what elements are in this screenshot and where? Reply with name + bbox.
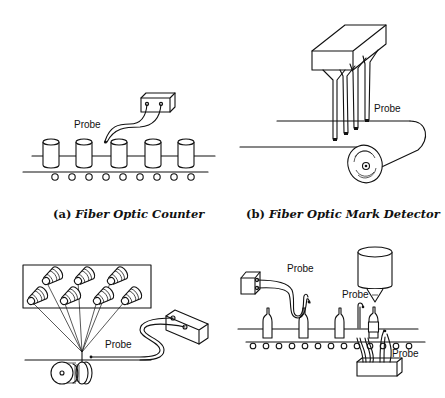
fiber-cable bbox=[257, 280, 308, 316]
probe-label: Probe bbox=[374, 103, 401, 114]
conveyor-rollers bbox=[250, 343, 412, 349]
probe-label: Probe bbox=[287, 263, 314, 274]
probe-label: Probe bbox=[392, 348, 419, 359]
probe-tip bbox=[90, 356, 93, 359]
probe-tip bbox=[308, 301, 311, 304]
fiber-optic-counter-diagram: Probe bbox=[23, 93, 215, 180]
probe-label: Probe bbox=[74, 119, 101, 130]
spool bbox=[51, 362, 92, 384]
caption-fiber-optic-mark-detector: (b) Fiber Optic Mark Detector bbox=[246, 207, 440, 221]
probe-tip bbox=[104, 140, 107, 143]
caption-text: Fiber Optic Counter bbox=[75, 207, 204, 221]
caption-prefix: (a) bbox=[53, 207, 71, 221]
conveyor-rollers bbox=[52, 174, 194, 180]
fiber-optic-multi-source-diagram: Probe bbox=[23, 265, 208, 384]
caption-fiber-optic-counter: (a) Fiber Optic Counter bbox=[53, 207, 204, 221]
caption-prefix: (b) bbox=[246, 207, 265, 221]
amplifier-box bbox=[241, 272, 260, 294]
caption-text: Fiber Optic Mark Detector bbox=[269, 207, 440, 221]
bottle-filling-line-diagram: Probe Probe Probe bbox=[238, 247, 425, 376]
probe-label: Probe bbox=[105, 339, 132, 350]
bottles bbox=[263, 307, 379, 338]
fiber-optic-mark-detector-diagram: Probe bbox=[240, 25, 426, 188]
amplifier-box bbox=[166, 310, 208, 344]
diagram-canvas: Probe bbox=[0, 0, 445, 398]
fiber-optic-applications-figure: Probe bbox=[0, 0, 445, 398]
probe-label: Probe bbox=[342, 289, 369, 300]
sensor-bar bbox=[312, 25, 386, 70]
bottle-label bbox=[369, 322, 379, 332]
cans bbox=[43, 139, 194, 168]
